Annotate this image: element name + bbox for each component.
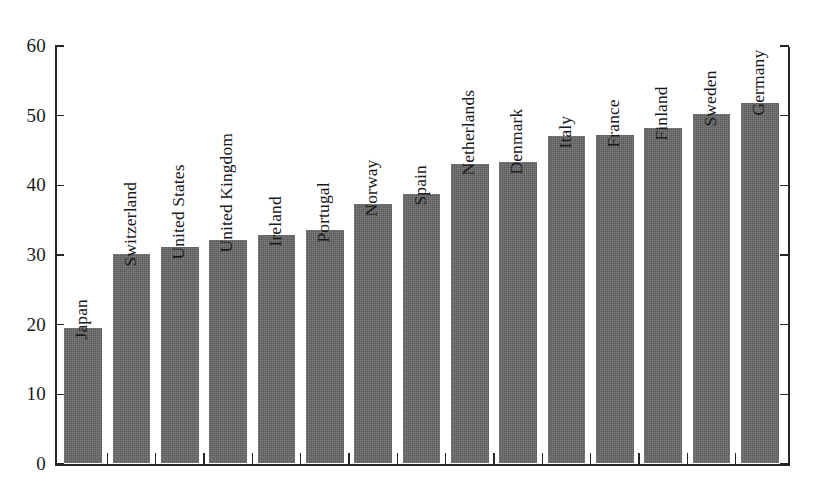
bar-category-label: Germany xyxy=(749,50,767,116)
x-tick xyxy=(735,453,737,465)
y-tick-right xyxy=(780,185,789,187)
y-tick-right xyxy=(780,463,789,465)
y-axis-tick-label: 60 xyxy=(6,36,46,55)
bar xyxy=(596,135,634,463)
y-axis-tick-label: 0 xyxy=(6,454,46,473)
bar xyxy=(64,328,102,464)
bar xyxy=(113,254,151,463)
bar-category-label: United States xyxy=(169,164,187,259)
x-tick xyxy=(300,453,302,465)
bar-category-label: France xyxy=(604,99,622,147)
y-axis-tick-label: 50 xyxy=(6,106,46,125)
x-tick xyxy=(445,453,447,465)
x-tick xyxy=(542,453,544,465)
bar xyxy=(644,128,682,463)
y-axis-tick-label: 40 xyxy=(6,175,46,194)
y-tick-left xyxy=(55,394,64,396)
x-tick xyxy=(155,453,157,465)
bar-category-label: Finland xyxy=(653,86,671,140)
plot-area: JapanSwitzerlandUnited StatesUnited King… xyxy=(55,47,790,465)
y-axis-tick-label: 30 xyxy=(6,245,46,264)
y-tick-left xyxy=(55,185,64,187)
bar-category-label: Denmark xyxy=(508,109,526,175)
bar-chart: 0102030405060 JapanSwitzerlandUnited Sta… xyxy=(0,0,821,500)
bar xyxy=(403,194,441,464)
y-axis-right-line xyxy=(788,47,790,465)
y-tick-right xyxy=(780,254,789,256)
x-tick xyxy=(687,453,689,465)
y-tick-left xyxy=(55,324,64,326)
bar xyxy=(451,164,489,464)
bar-category-label: Ireland xyxy=(266,197,284,247)
bar-category-label: Portugal xyxy=(314,182,332,242)
bar-category-label: Sweden xyxy=(701,70,719,126)
bar xyxy=(741,103,779,463)
y-tick-left xyxy=(55,45,64,47)
x-tick xyxy=(348,453,350,465)
bar xyxy=(209,240,247,463)
x-axis-baseline xyxy=(55,464,790,466)
bar xyxy=(161,247,199,463)
bar-category-label: Norway xyxy=(363,159,381,216)
x-tick xyxy=(590,453,592,465)
y-axis-tick-label: 20 xyxy=(6,315,46,334)
y-axis-labels: 0102030405060 xyxy=(0,47,46,465)
x-tick xyxy=(638,453,640,465)
bar-category-label: Spain xyxy=(411,166,429,206)
bar xyxy=(693,114,731,463)
x-tick xyxy=(107,453,109,465)
bar-category-label: Netherlands xyxy=(459,90,477,176)
x-tick xyxy=(493,453,495,465)
y-tick-right xyxy=(780,45,789,47)
bar xyxy=(258,235,296,464)
bar xyxy=(548,136,586,463)
bar-category-label: Japan xyxy=(73,299,91,339)
y-axis-tick-label: 10 xyxy=(6,384,46,403)
y-tick-right xyxy=(780,115,789,117)
bar-category-label: Italy xyxy=(556,115,574,148)
y-tick-right xyxy=(780,324,789,326)
bar xyxy=(306,230,344,463)
y-tick-left xyxy=(55,115,64,117)
y-tick-left xyxy=(55,463,64,465)
y-axis-left-line xyxy=(55,47,57,465)
y-tick-right xyxy=(780,394,789,396)
bar-category-label: Switzerland xyxy=(121,182,139,267)
x-tick xyxy=(397,453,399,465)
bar xyxy=(499,162,537,463)
x-tick xyxy=(203,453,205,465)
bar xyxy=(354,204,392,463)
x-tick xyxy=(252,453,254,465)
y-tick-left xyxy=(55,254,64,256)
bar-category-label: United Kingdom xyxy=(218,133,236,253)
